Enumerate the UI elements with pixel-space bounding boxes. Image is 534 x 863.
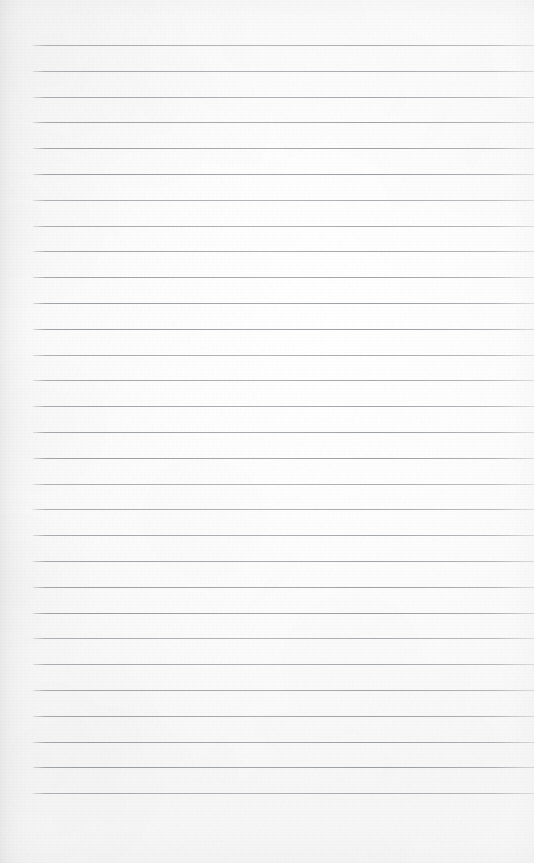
notebook-page [0,0,534,863]
writing-area [33,45,534,802]
